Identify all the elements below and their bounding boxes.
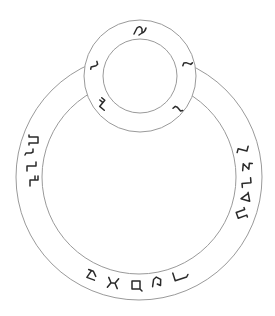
large-ring-glyphs — [25, 135, 252, 291]
glyph-left-2-icon — [25, 149, 33, 155]
glyph-bottom-5-icon — [173, 269, 189, 281]
diagram-canvas — [0, 0, 275, 316]
glyph-right-1-icon — [237, 144, 248, 155]
glyph-left-4-icon — [30, 176, 38, 186]
small-ring-mask — [84, 20, 196, 132]
glyph-right-5-icon — [236, 208, 248, 220]
small-ring — [84, 20, 196, 132]
ring-diagram — [0, 0, 275, 316]
glyph-bottom-3-icon — [132, 281, 142, 291]
glyph-bottom-4-icon — [151, 276, 161, 286]
glyph-left-3-icon — [27, 162, 36, 171]
glyph-bottom-1-icon — [86, 270, 97, 281]
glyph-bottom-2-icon — [107, 277, 118, 288]
glyph-right-4-icon — [240, 192, 249, 202]
glyph-left-1-icon — [29, 135, 38, 145]
glyph-right-3-icon — [242, 178, 252, 188]
glyph-right-2-icon — [243, 163, 253, 172]
